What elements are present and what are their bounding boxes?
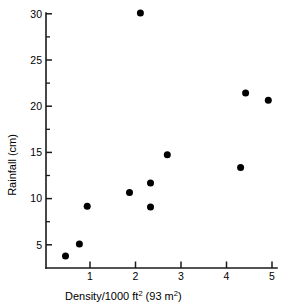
x-tick-label: 2 (133, 270, 139, 282)
y-axis-title: Rainfall (cm) (6, 134, 18, 196)
data-series (62, 10, 272, 260)
axes-group (46, 13, 277, 268)
x-tick-label: 1 (87, 270, 93, 282)
x-axis-title-seg2: (93 m (143, 290, 174, 302)
chart-canvas: 30 25 20 15 10 5 1 2 3 (0, 0, 290, 308)
x-tick-label: 5 (269, 270, 275, 282)
data-point (242, 89, 249, 96)
x-axis-title: Density/1000 ft2 (93 m2) (65, 289, 182, 302)
x-tick-label: 3 (178, 270, 184, 282)
x-axis-title-seg3: ) (178, 290, 182, 302)
data-point (76, 241, 83, 248)
data-point (126, 189, 133, 196)
y-tick-label: 10 (30, 192, 42, 204)
x-tick-label: 4 (224, 270, 230, 282)
x-axis-ticks: 1 2 3 4 5 (87, 262, 275, 282)
data-point (265, 97, 272, 104)
y-tick-label: 20 (30, 100, 42, 112)
y-tick-label: 30 (30, 8, 42, 20)
data-point (137, 10, 144, 17)
data-point (147, 180, 154, 187)
y-tick-label: 25 (30, 54, 42, 66)
y-tick-label: 15 (30, 146, 42, 158)
scatter-plot-figure: 30 25 20 15 10 5 1 2 3 (0, 0, 290, 308)
y-tick-label: 5 (36, 239, 42, 251)
data-point (62, 253, 69, 260)
data-point (84, 203, 91, 210)
data-point (237, 164, 244, 171)
data-point (147, 204, 154, 211)
x-axis-title-seg1: Density/1000 ft (65, 290, 138, 302)
data-point (164, 151, 171, 158)
svg-text:Density/1000 ft2 (93 m2): Density/1000 ft2 (93 m2) (65, 289, 182, 302)
